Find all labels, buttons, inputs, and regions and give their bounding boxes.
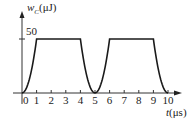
x-tick-label-1: 1 bbox=[34, 94, 40, 106]
x-tick-label-8: 8 bbox=[136, 94, 142, 106]
x-axis-arrow-icon bbox=[174, 91, 182, 96]
series-line-wc bbox=[22, 39, 168, 93]
x-axis-label: t(μs) bbox=[166, 106, 187, 118]
x-tick-label-9: 9 bbox=[151, 94, 157, 106]
x-tick-label-3: 3 bbox=[63, 94, 69, 106]
x-tick-label-7: 7 bbox=[121, 94, 127, 106]
x-label-unit: (μs) bbox=[169, 106, 187, 118]
x-tick-label-4: 4 bbox=[78, 94, 84, 106]
y-axis-arrow-icon bbox=[20, 11, 25, 18]
x-tick-label-10: 10 bbox=[163, 94, 174, 106]
x-tick-label-6: 6 bbox=[107, 94, 113, 106]
x-tick-label-0: 0 bbox=[23, 94, 29, 106]
y-label-unit: (μJ) bbox=[39, 1, 57, 13]
x-tick-label-5: 5 bbox=[92, 94, 98, 106]
y-tick-label-50: 50 bbox=[26, 25, 37, 37]
x-tick-label-2: 2 bbox=[48, 94, 54, 106]
y-axis-label: wC(μJ) bbox=[27, 1, 57, 16]
